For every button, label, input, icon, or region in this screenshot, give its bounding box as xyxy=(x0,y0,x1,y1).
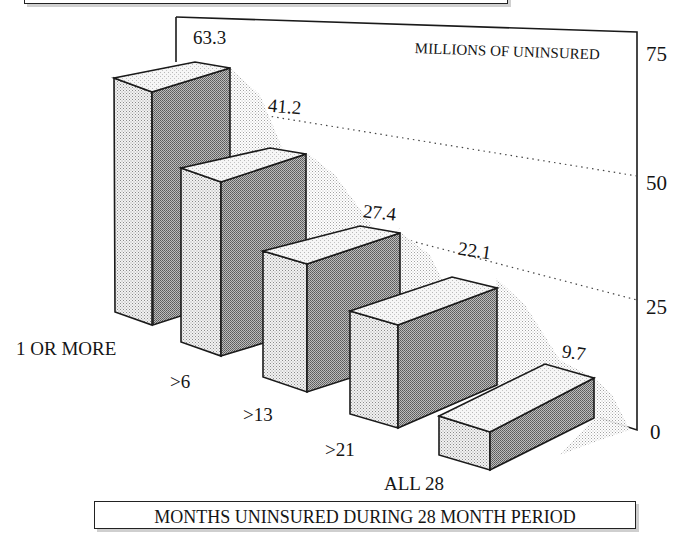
category-label-4: >21 xyxy=(325,440,355,459)
category-label-3: >13 xyxy=(243,405,273,424)
category-label-1: 1 OR MORE xyxy=(16,339,116,358)
value-label-2: 41.2 xyxy=(267,96,302,118)
value-label-4: 22.1 xyxy=(457,239,493,262)
y-tick-50: 50 xyxy=(646,173,667,194)
category-label-2: >6 xyxy=(170,372,190,391)
y-tick-25: 25 xyxy=(646,297,667,318)
y-tick-0: 0 xyxy=(650,422,661,443)
category-label-5: ALL 28 xyxy=(384,474,444,493)
y-tick-75: 75 xyxy=(646,44,667,65)
bar-chart-3d xyxy=(0,0,692,542)
value-label-1: 63.3 xyxy=(193,28,226,47)
value-label-5: 9.7 xyxy=(561,341,587,363)
x-axis-title-box: MONTHS UNINSURED DURING 28 MONTH PERIOD xyxy=(94,501,636,529)
value-label-3: 27.4 xyxy=(362,201,397,223)
x-axis-title: MONTHS UNINSURED DURING 28 MONTH PERIOD xyxy=(95,507,635,528)
